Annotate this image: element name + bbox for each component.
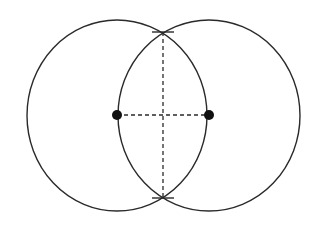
- right-center-point: [204, 110, 214, 120]
- construction-diagram: [0, 0, 317, 230]
- diagram-canvas: [0, 0, 317, 230]
- left-center-point: [112, 110, 122, 120]
